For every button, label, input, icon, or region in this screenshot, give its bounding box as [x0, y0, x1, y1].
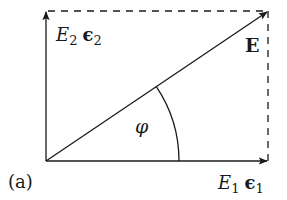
vector-e-label: E: [245, 34, 259, 56]
y-component-label: E2ϵ2: [55, 24, 102, 48]
angle-label: φ: [135, 115, 149, 137]
vector-decomposition-diagram: φ E E2ϵ2 E1ϵ1 (a): [0, 0, 287, 200]
angle-arc: [156, 87, 179, 161]
x-component-label: E1ϵ1: [217, 172, 264, 196]
panel-label: (a): [8, 171, 33, 192]
